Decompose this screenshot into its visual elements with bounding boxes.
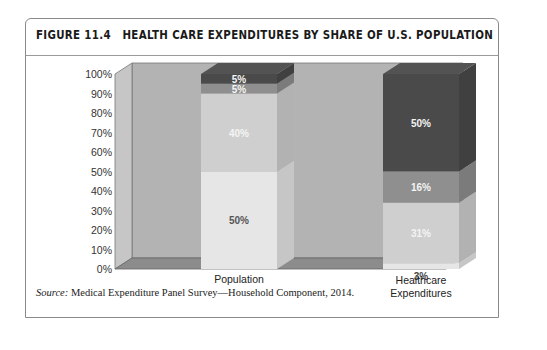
- bar-side: [277, 161, 294, 270]
- x-tick-label: Healthcare: [396, 274, 447, 286]
- data-label: 16%: [411, 182, 431, 193]
- y-tick-label: 0%: [97, 263, 112, 275]
- y-tick-label: 50%: [91, 166, 112, 178]
- x-tick-label: Population: [214, 273, 264, 285]
- bar-side: [459, 192, 476, 263]
- y-tick-label: 100%: [85, 68, 112, 80]
- y-tick-label: 20%: [91, 224, 112, 236]
- data-label: 5%: [232, 84, 247, 95]
- bar-segment: [383, 263, 459, 269]
- x-tick-label: Expenditures: [390, 287, 451, 299]
- bar-side: [277, 83, 294, 172]
- source-label: Source:: [36, 287, 68, 298]
- y-tick-label: 80%: [91, 107, 112, 119]
- data-label: 40%: [229, 128, 249, 139]
- data-label: 5%: [232, 74, 247, 85]
- y-tick-label: 30%: [91, 205, 112, 217]
- y-tick-label: 10%: [91, 244, 112, 256]
- y-tick-label: 90%: [91, 88, 112, 100]
- y-tick-label: 60%: [91, 146, 112, 158]
- y-tick-label: 70%: [91, 127, 112, 139]
- y-tick-label: 40%: [91, 185, 112, 197]
- data-label: 31%: [411, 228, 431, 239]
- data-label: 50%: [411, 118, 431, 129]
- source-text: Medical Expenditure Panel Survey—Househo…: [68, 287, 354, 298]
- data-label: 50%: [229, 215, 249, 226]
- side-wall: [115, 63, 132, 269]
- bar-side: [459, 63, 476, 172]
- figure-source: Source: Medical Expenditure Panel Survey…: [36, 287, 354, 298]
